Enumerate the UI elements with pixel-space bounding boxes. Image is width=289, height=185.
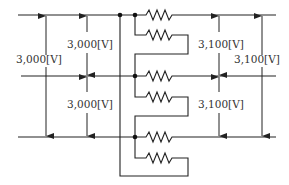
junction-dot: [133, 13, 138, 18]
dimension-left-upper: 3,000[V]: [67, 16, 113, 75]
dimension-left-lower: 3,000[V]: [67, 77, 113, 136]
dimension-right-lower: 3,100[V]: [198, 77, 244, 136]
label-right-total: 3,100[V]: [234, 53, 280, 65]
label-right-lower: 3,100[V]: [198, 98, 244, 110]
circuit-diagram: 3,000[V] 3,000[V] 3,000[V] 3,100[V] 3,10…: [0, 0, 289, 185]
label-left-total: 3,000[V]: [16, 53, 62, 65]
dimension-right-upper: 3,100[V]: [198, 16, 244, 75]
junction-dot: [133, 135, 138, 140]
resistor-6: [143, 153, 175, 163]
resistor-4: [143, 92, 175, 102]
group-top: [135, 15, 188, 76]
junction-dot: [133, 74, 138, 79]
label-left-upper: 3,000[V]: [67, 38, 113, 50]
label-right-upper: 3,100[V]: [198, 38, 244, 50]
group-bottom: [135, 137, 143, 158]
resistor-3: [143, 71, 175, 81]
junction-dot: [118, 13, 123, 18]
resistor-2: [143, 30, 175, 40]
resistor-1: [143, 10, 175, 20]
return-bus-wire: [120, 15, 188, 176]
group-middle: [135, 76, 188, 137]
label-left-lower: 3,000[V]: [67, 98, 113, 110]
resistor-5: [143, 132, 175, 142]
